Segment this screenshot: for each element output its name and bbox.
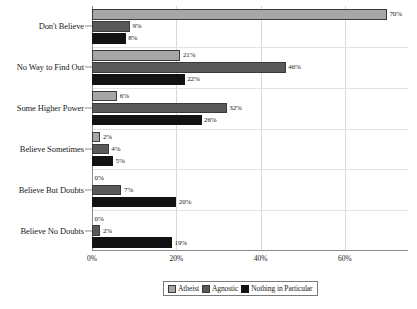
bar-value-label: 0% — [95, 174, 104, 181]
bar-value-label: 22% — [187, 76, 200, 83]
bar[interactable] — [92, 225, 100, 236]
bar-row: 32% — [92, 103, 408, 114]
x-axis-tick-labels: 0%20%40%60% — [92, 254, 408, 268]
bar[interactable] — [92, 91, 117, 102]
bar[interactable] — [92, 115, 202, 126]
bar-row: 22% — [92, 74, 408, 85]
bar-row: 21% — [92, 50, 408, 61]
bar-row: 5% — [92, 156, 408, 167]
group-separator — [92, 47, 408, 48]
x-axis-tick-label: 60% — [338, 254, 352, 263]
group-separator — [92, 88, 408, 89]
x-axis-tick-label: 20% — [169, 254, 183, 263]
bar-row: 70% — [92, 9, 408, 20]
bar[interactable] — [92, 33, 126, 44]
bar-value-label: 32% — [229, 105, 242, 112]
x-axis-line — [92, 250, 408, 251]
x-axis-tick-label: 0% — [87, 254, 97, 263]
bar-value-label: 20% — [179, 198, 192, 205]
bar-value-label: 19% — [175, 239, 188, 246]
bar-value-label: 70% — [389, 11, 402, 18]
bar[interactable] — [92, 197, 176, 208]
group-separator — [92, 129, 408, 130]
bar-row: 0% — [92, 213, 408, 224]
bar-group: 0%7%20% — [92, 173, 408, 208]
bar-chart: Don't BelieveNo Way to Find OutSome High… — [0, 0, 417, 309]
bar-value-label: 9% — [132, 23, 141, 30]
legend-label: Atheist — [178, 284, 199, 293]
legend-swatch-icon — [202, 285, 210, 293]
y-axis-label: Some Higher Power — [17, 103, 84, 113]
y-axis-label: Believe But Doubts — [19, 185, 84, 195]
legend-label: Nothing in Particular — [251, 284, 312, 293]
group-separator — [92, 169, 408, 170]
y-axis-ticks — [85, 6, 92, 251]
y-axis-tick — [85, 26, 92, 27]
bar-value-label: 2% — [103, 133, 112, 140]
y-axis-label: Believe No Doubts — [21, 226, 84, 236]
bar-value-label: 46% — [288, 64, 301, 71]
bar-value-label: 6% — [120, 93, 129, 100]
group-separator — [92, 210, 408, 211]
bar[interactable] — [92, 144, 109, 155]
legend-swatch-icon — [168, 285, 176, 293]
bar-group: 6%32%26% — [92, 91, 408, 126]
bar-row: 4% — [92, 144, 408, 155]
y-axis-label: Believe Sometimes — [20, 144, 84, 154]
bar-value-label: 5% — [116, 157, 125, 164]
bar-row: 8% — [92, 33, 408, 44]
x-axis-tick-label: 40% — [254, 254, 268, 263]
bar-row: 26% — [92, 115, 408, 126]
legend-label: Agnostic — [212, 284, 238, 293]
bar-value-label: 2% — [103, 227, 112, 234]
y-axis-tick — [85, 67, 92, 68]
bar-value-label: 7% — [124, 186, 133, 193]
bar-group: 21%46%22% — [92, 50, 408, 85]
y-axis-tick — [85, 148, 92, 149]
bar[interactable] — [92, 9, 387, 20]
bar[interactable] — [92, 21, 130, 32]
bar[interactable] — [92, 74, 185, 85]
legend-item[interactable]: Agnostic — [202, 284, 238, 293]
bar-group: 0%2%19% — [92, 213, 408, 248]
bar-row: 6% — [92, 91, 408, 102]
bar[interactable] — [92, 62, 286, 73]
bar[interactable] — [92, 185, 121, 196]
legend-item[interactable]: Atheist — [168, 284, 199, 293]
bar[interactable] — [92, 50, 180, 61]
legend-item[interactable]: Nothing in Particular — [241, 284, 312, 293]
bar-row: 7% — [92, 185, 408, 196]
plot-area: 70%9%8%21%46%22%6%32%26%2%4%5%0%7%20%0%2… — [92, 6, 408, 251]
bar-row: 46% — [92, 62, 408, 73]
bar-row: 9% — [92, 21, 408, 32]
bar-group: 70%9%8% — [92, 9, 408, 44]
y-axis-label: No Way to Find Out — [17, 62, 84, 72]
bar-row: 19% — [92, 237, 408, 248]
bar-group: 2%4%5% — [92, 132, 408, 167]
bar-value-label: 26% — [204, 117, 217, 124]
bar-value-label: 21% — [183, 52, 196, 59]
bar-row: 2% — [92, 132, 408, 143]
y-axis-tick — [85, 189, 92, 190]
bar-row: 0% — [92, 173, 408, 184]
bar[interactable] — [92, 156, 113, 167]
bar[interactable] — [92, 132, 100, 143]
y-axis-label: Don't Believe — [39, 21, 84, 31]
y-axis-category-labels: Don't BelieveNo Way to Find OutSome High… — [0, 6, 84, 251]
bar-value-label: 8% — [128, 35, 137, 42]
legend-swatch-icon — [241, 285, 249, 293]
chart-legend: AtheistAgnosticNothing in Particular — [163, 281, 318, 296]
y-axis-tick — [85, 230, 92, 231]
y-axis-tick — [85, 108, 92, 109]
bar-value-label: 0% — [95, 215, 104, 222]
bar[interactable] — [92, 103, 227, 114]
bar-row: 2% — [92, 225, 408, 236]
bar[interactable] — [92, 237, 172, 248]
bar-value-label: 4% — [111, 145, 120, 152]
bar-row: 20% — [92, 197, 408, 208]
